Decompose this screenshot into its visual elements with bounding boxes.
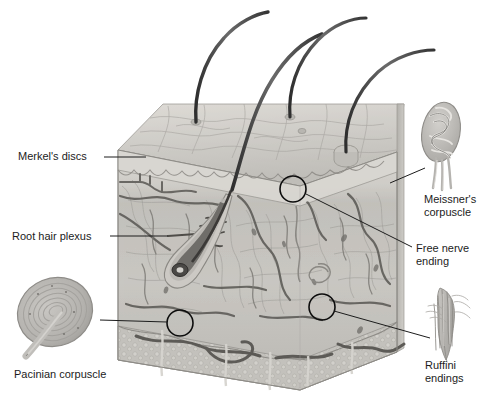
label-ruffini-endings-line2: endings	[425, 372, 464, 384]
label-root-hair-plexus: Root hair plexus	[12, 230, 92, 242]
ruffini-endings-inset	[426, 288, 470, 362]
label-ruffini-endings-line1: Ruffini	[425, 359, 456, 371]
skin-receptors-figure: Merkel's discs Root hair plexus Pacinian…	[0, 0, 493, 406]
skin-diagram-svg: Merkel's discs Root hair plexus Pacinian…	[0, 0, 493, 406]
label-pacinian-corpuscle: Pacinian corpuscle	[14, 368, 106, 380]
label-free-nerve-ending-line2: ending	[416, 255, 449, 267]
label-merkel-discs: Merkel's discs	[18, 150, 87, 162]
pacinian-corpuscle-inset	[7, 266, 103, 358]
skin-block	[118, 104, 404, 390]
block-side-face	[397, 104, 404, 352]
label-meissner-corpuscle-line1: Meissner's	[424, 193, 477, 205]
label-meissner-corpuscle-line2: corpuscle	[424, 206, 471, 218]
label-free-nerve-ending-line1: Free nerve	[416, 242, 469, 254]
meissner-corpuscle-inset	[417, 99, 465, 190]
